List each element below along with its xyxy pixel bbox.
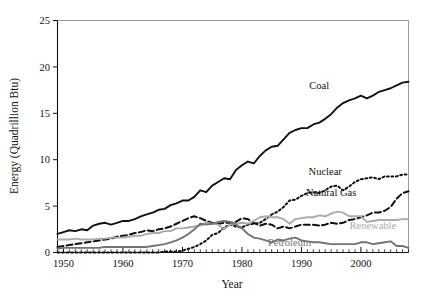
x-axis-title: Year — [221, 278, 242, 290]
y-tick-label: 10 — [40, 154, 51, 165]
x-tick-label: 1980 — [231, 258, 252, 269]
chart-canvas: 0510152025195019601970198019902000 CoalN… — [0, 0, 427, 296]
x-tick-label: 1960 — [112, 258, 133, 269]
series-label-coal: Coal — [309, 80, 329, 91]
y-tick-label: 20 — [40, 62, 51, 73]
y-tick-label: 15 — [40, 108, 51, 119]
y-tick-label: 0 — [45, 247, 50, 258]
x-tick-label: 2000 — [350, 258, 371, 269]
y-tick-label: 25 — [40, 15, 51, 26]
x-tick-label: 1970 — [172, 258, 193, 269]
series-label-renewable: Renewable — [349, 220, 396, 231]
energy-line-chart: 0510152025195019601970198019902000 CoalN… — [0, 0, 427, 296]
series-label-natural-gas: Natural Gas — [306, 187, 356, 198]
y-axis-title: Energy (Quadrillion Btu) — [8, 78, 21, 194]
series-label-nuclear: Nuclear — [309, 166, 343, 177]
x-tick-label: 1990 — [291, 258, 312, 269]
y-tick-label: 5 — [45, 201, 50, 212]
x-tick-label: 1950 — [53, 258, 74, 269]
series-label-petroleum: Petroleum — [268, 237, 311, 248]
